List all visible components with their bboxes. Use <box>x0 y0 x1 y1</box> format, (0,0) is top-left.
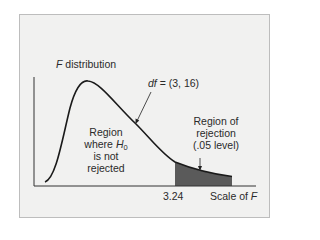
critical-value-tick: 3.24 <box>163 190 183 202</box>
df-arrow <box>137 92 151 121</box>
x-axis-label: Scale of F <box>210 190 257 202</box>
chart-title: F distribution <box>56 58 116 70</box>
df-label: df = (3, 16) <box>148 77 199 89</box>
accept-region-label: Region where H0 is not rejected <box>78 126 134 174</box>
rejection-region-label: Region of rejection (.05 level) <box>186 115 246 151</box>
